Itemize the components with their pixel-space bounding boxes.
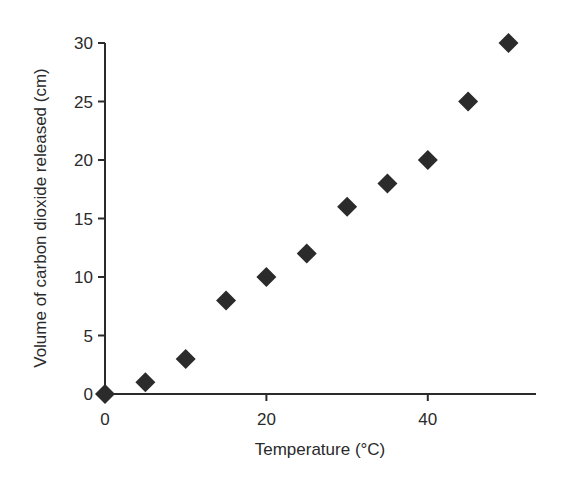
x-axis-title: Temperature (°C): [255, 440, 386, 459]
data-point-diamond: [377, 173, 397, 193]
x-tick-label: 20: [257, 410, 276, 429]
x-tick-label: 40: [418, 410, 437, 429]
scatter-chart: 051015202530 02040 Temperature (°C) Volu…: [0, 0, 562, 482]
y-tick-label: 15: [74, 210, 93, 229]
data-point-diamond: [95, 384, 115, 404]
x-axis-ticks: 02040: [100, 394, 437, 429]
data-point-diamond: [499, 33, 519, 53]
data-point-diamond: [297, 244, 317, 264]
x-tick-label: 0: [100, 410, 109, 429]
y-tick-label: 25: [74, 93, 93, 112]
data-point-diamond: [418, 150, 438, 170]
data-point-diamond: [256, 267, 276, 287]
data-point-diamond: [458, 92, 478, 112]
data-points: [95, 33, 519, 404]
y-tick-label: 0: [84, 385, 93, 404]
y-tick-label: 10: [74, 268, 93, 287]
y-tick-label: 20: [74, 151, 93, 170]
data-point-diamond: [135, 372, 155, 392]
data-point-diamond: [176, 349, 196, 369]
data-point-diamond: [216, 290, 236, 310]
y-tick-label: 5: [84, 327, 93, 346]
y-axis-ticks: 051015202530: [74, 34, 105, 404]
y-tick-label: 30: [74, 34, 93, 53]
data-point-diamond: [337, 197, 357, 217]
y-axis-title: Volume of carbon dioxide released (cm): [31, 68, 50, 368]
